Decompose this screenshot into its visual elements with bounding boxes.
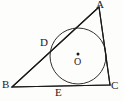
- tangent-point-label-e: E: [55, 87, 62, 98]
- triangle-abc: [12, 7, 110, 87]
- vertex-label-b: B: [2, 79, 9, 90]
- tangent-point-label-d: D: [40, 37, 48, 48]
- geometry-figure: A B C D E O: [0, 0, 123, 101]
- side-ab: [12, 7, 99, 87]
- circle-center-label-o: O: [74, 57, 81, 67]
- vertex-label-a: A: [96, 0, 104, 10]
- vertex-label-c: C: [111, 80, 118, 91]
